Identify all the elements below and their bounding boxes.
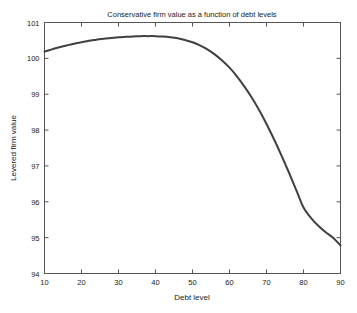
x-tick-label: 80 — [299, 278, 307, 287]
y-tick-label: 99 — [31, 90, 39, 99]
y-tick-label: 94 — [31, 270, 39, 279]
y-tick-label: 98 — [31, 126, 39, 135]
x-tick-label: 40 — [151, 278, 159, 287]
chart-background — [0, 0, 357, 313]
y-tick-label: 95 — [31, 234, 39, 243]
x-tick-label: 20 — [77, 278, 85, 287]
line-chart: Conservative firm value as a function of… — [0, 0, 357, 313]
y-tick-label: 100 — [27, 54, 40, 63]
y-tick-label: 101 — [27, 19, 40, 28]
x-tick-label: 90 — [336, 278, 344, 287]
x-tick-label: 70 — [262, 278, 270, 287]
chart-container: Conservative firm value as a function of… — [0, 0, 357, 313]
x-tick-label: 60 — [225, 278, 233, 287]
y-axis-label: Levered firm value — [9, 115, 18, 181]
x-tick-label: 50 — [188, 278, 196, 287]
y-tick-label: 97 — [31, 162, 39, 171]
x-tick-label: 10 — [40, 278, 48, 287]
y-tick-label: 96 — [31, 198, 39, 207]
x-tick-label: 30 — [114, 278, 122, 287]
x-axis-label: Debt level — [174, 293, 210, 302]
chart-title: Conservative firm value as a function of… — [107, 10, 277, 19]
